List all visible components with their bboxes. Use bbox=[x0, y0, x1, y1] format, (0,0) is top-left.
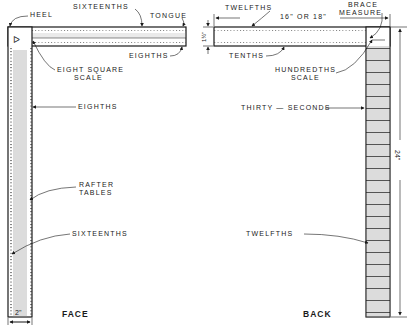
label-tongue: TONGUE bbox=[150, 12, 187, 20]
label-blade-width: 2" bbox=[15, 309, 21, 317]
caption-back: BACK bbox=[303, 310, 332, 318]
framing-square-diagram: ᐅ bbox=[0, 0, 407, 325]
label-sixteenths-tongue: SIXTEENTHS bbox=[73, 3, 129, 11]
label-brace-measure-line1: BRACE bbox=[348, 1, 378, 9]
diagram-drawing: ᐅ bbox=[0, 0, 407, 325]
label-brace-measure-line2: MEASURE bbox=[339, 9, 382, 17]
label-twelfths-tongue: TWELFTHS bbox=[225, 4, 272, 12]
label-heel: HEEL bbox=[30, 11, 53, 19]
label-blade-length: 24" bbox=[393, 150, 401, 160]
label-eighths-tongue: EIGHTHS bbox=[129, 52, 169, 60]
label-eighths-blade: EIGHTHS bbox=[78, 103, 118, 111]
label-sixteenths-blade: SIXTEENTHS bbox=[72, 230, 128, 238]
label-hundredths-scale-line1: HUNDREDTHS bbox=[275, 66, 336, 74]
label-thirty-seconds: THIRTY — SECONDS bbox=[241, 104, 331, 112]
label-twelfths-blade: TWELFTHS bbox=[246, 230, 293, 238]
svg-text:ᐅ: ᐅ bbox=[13, 35, 20, 45]
label-hundredths-scale-line2: SCALE bbox=[291, 74, 320, 82]
label-rafter-tables-line1: RAFTER bbox=[79, 181, 114, 189]
label-rafter-tables-line2: TABLES bbox=[79, 189, 113, 197]
label-eight-square-scale-line1: EIGHT SQUARE bbox=[57, 66, 124, 74]
label-tenths: TENTHS bbox=[229, 52, 264, 60]
caption-face: FACE bbox=[62, 310, 89, 318]
label-eight-square-scale-line2: SCALE bbox=[74, 74, 103, 82]
label-tongue-length: 16" OR 18" bbox=[280, 13, 327, 21]
label-tongue-width: 1½" bbox=[200, 32, 208, 42]
